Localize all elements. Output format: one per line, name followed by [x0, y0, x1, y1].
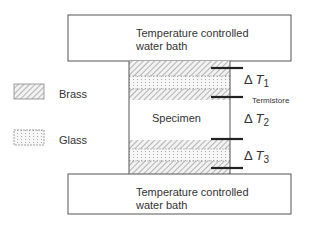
glass-layer-1 — [129, 76, 230, 89]
bottom-bath-label-line1: Temperature controlled — [136, 186, 249, 199]
legend-brass-label: Brass — [59, 88, 87, 101]
delta-t1-label: Δ T1 — [244, 73, 269, 90]
glass-layer-2 — [129, 149, 230, 161]
delta-t2-label: Δ T2 — [244, 112, 269, 129]
thermistor-label: Termistore — [252, 94, 289, 107]
bottom-bath-label-line2: water bath — [136, 199, 187, 212]
legend-brass-swatch — [14, 84, 44, 99]
specimen-label: Specimen — [152, 112, 201, 125]
brass-layer-2 — [129, 89, 230, 100]
top-bath-label-line1: Temperature controlled — [136, 27, 249, 40]
brass-layer-3 — [129, 140, 230, 149]
legend-glass-swatch — [14, 130, 44, 145]
legend-glass-label: Glass — [59, 134, 87, 147]
top-bath-label-line2: water bath — [136, 40, 187, 53]
delta-t3-label: Δ T3 — [244, 149, 269, 166]
